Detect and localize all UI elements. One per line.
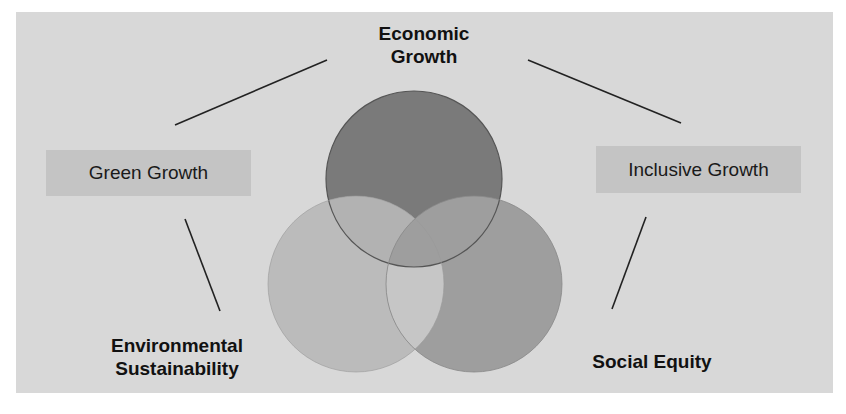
- label-green-growth: Green Growth: [46, 150, 251, 196]
- label-green-growth-text: Green Growth: [89, 162, 208, 184]
- connector-line-economic-green: [175, 60, 327, 125]
- connector-line-economic-inclusive: [528, 60, 681, 123]
- label-economic-line1: Economic: [354, 22, 494, 45]
- label-economic-growth: Economic Growth: [354, 22, 494, 68]
- label-social-equity: Social Equity: [572, 350, 732, 373]
- label-social-equity-text: Social Equity: [592, 351, 711, 372]
- label-environmental-sustainability: Environmental Sustainability: [86, 334, 268, 380]
- label-inclusive-growth: Inclusive Growth: [596, 146, 801, 193]
- connector-line-green-environmental: [185, 219, 220, 311]
- label-environmental-line1: Environmental: [86, 334, 268, 357]
- label-environmental-line2: Sustainability: [86, 357, 268, 380]
- connector-line-inclusive-social: [612, 217, 646, 309]
- label-economic-line2: Growth: [354, 45, 494, 68]
- label-inclusive-growth-text: Inclusive Growth: [628, 159, 768, 181]
